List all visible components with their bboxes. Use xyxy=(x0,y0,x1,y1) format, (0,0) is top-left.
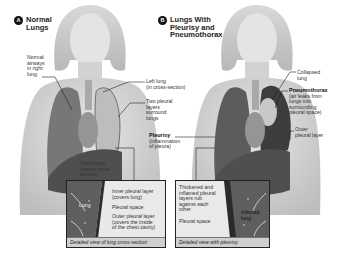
inset-b-caption: Detailed view with pleurisy xyxy=(176,237,269,247)
panel-b-badge: B xyxy=(158,16,167,25)
panel-a-badge: A xyxy=(14,16,23,25)
inset-a-pleural-space: Pleural space xyxy=(112,205,143,211)
label-outer-pleural-layer: Outer pleural layer xyxy=(295,127,323,138)
panel-b-title-line3: Pneumothorax xyxy=(170,30,223,39)
inset-a-lung-label: Lung xyxy=(79,203,91,209)
inset-lung-cross-section: Lung Inner pleural layer (covers lung) P… xyxy=(66,180,166,248)
inset-a-inner-layer: Inner pleural layer (covers lung) xyxy=(112,189,154,200)
inset-b-pleural-space: Pleural space xyxy=(179,219,210,225)
label-pneumothorax: Pneumothorax (air leaks from lungs into … xyxy=(289,88,328,116)
inset-b-thickened-layers: Thickened and inflamed pleural layers ru… xyxy=(179,185,216,213)
panel-b-title: B Lungs With Pleurisy and Pneumothorax xyxy=(158,16,223,39)
label-diaphragm: Diaphragm (partial cross- section) xyxy=(80,161,111,178)
label-left-lung: Left lung (in cross-section) xyxy=(146,79,186,90)
inset-b-infected-lung: Infected lung xyxy=(241,210,259,221)
label-normal-airways: Normal airways in right lung xyxy=(27,55,45,77)
panel-a-title-line2: Lungs xyxy=(26,23,49,32)
panel-a-title: A Normal Lungs xyxy=(14,16,52,31)
label-pleurisy: Pleurisy (inflammation of pleura) xyxy=(149,133,180,150)
label-two-pleural-layers: Two pleural layers surround lungs xyxy=(146,99,173,121)
inset-a-caption: Detailed view of lung cross-section xyxy=(67,237,165,247)
inset-a-outer-layer: Outer pleural layer (covers the inside o… xyxy=(112,214,155,231)
inset-pleurisy: Thickened and inflamed pleural layers ru… xyxy=(175,180,270,248)
label-collapsed-lung: Collapsed lung xyxy=(297,70,320,81)
